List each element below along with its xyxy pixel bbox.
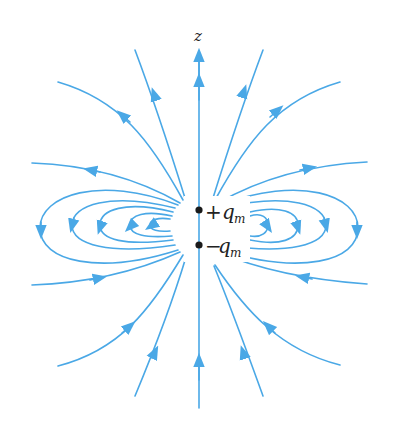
negative-charge-dot bbox=[195, 241, 202, 248]
dipole-field-diagram: z + q m − q m bbox=[0, 0, 393, 434]
negative-charge-symbol: q bbox=[218, 234, 231, 258]
field-line-upper-right-2 bbox=[215, 82, 340, 200]
field-line-upper-left-1 bbox=[135, 50, 185, 198]
field-line-lower-right-3 bbox=[214, 266, 263, 396]
field-loop-right-4 bbox=[250, 215, 268, 237]
z-axis-label: z bbox=[193, 27, 202, 45]
negative-charge-subscript: m bbox=[230, 246, 241, 260]
positive-charge-symbol: q bbox=[222, 200, 235, 224]
positive-charge-sign: + bbox=[205, 200, 222, 224]
field-line-lower-left-1 bbox=[32, 252, 180, 285]
field-line-lower-left-3 bbox=[135, 257, 186, 396]
field-line-upper-right-1 bbox=[213, 50, 263, 198]
positive-charge-dot bbox=[195, 206, 202, 213]
field-line-canvas: z + q m − q m bbox=[0, 0, 393, 434]
field-line-upper-left-3 bbox=[32, 163, 180, 203]
field-line-lower-left-2 bbox=[58, 255, 183, 366]
positive-charge-subscript: m bbox=[234, 212, 245, 226]
field-line-upper-left-2 bbox=[58, 82, 183, 200]
field-loop-left-4 bbox=[130, 213, 172, 236]
